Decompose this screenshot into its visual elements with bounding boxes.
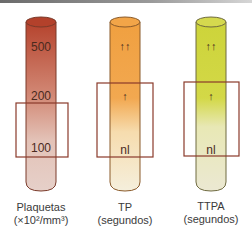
caption-tp-units: (segundos) [80,214,170,227]
tp-marker-up-arrow: ↑ [122,90,128,102]
tp-marker-normal: nl [120,143,129,157]
plaquetas-marker-200: 200 [31,89,51,103]
ttpa-marker-up-arrow: ↑ [208,90,214,102]
plaquetas-marker-100: 100 [31,141,51,155]
caption-ttpa: TTPA (segundos) [166,200,252,226]
caption-plaquetas-title: Plaquetas [0,201,86,214]
ttpa-marker-normal: nl [206,143,215,157]
caption-ttpa-units: (segundos) [166,213,252,226]
caption-plaquetas: Plaquetas (×10²/mm³) [0,201,86,227]
tp-marker-double-up-arrow: ↑↑ [120,40,131,52]
caption-plaquetas-units: (×10²/mm³) [0,214,86,227]
caption-ttpa-title: TTPA [166,200,252,213]
coagulation-tubes-diagram: 500 200 100 ↑↑ ↑ nl ↑↑ ↑ nl [0,0,252,233]
ttpa-marker-double-up-arrow: ↑↑ [206,40,217,52]
plaquetas-marker-500: 500 [31,40,51,54]
caption-tp-title: TP [80,201,170,214]
caption-tp: TP (segundos) [80,201,170,227]
